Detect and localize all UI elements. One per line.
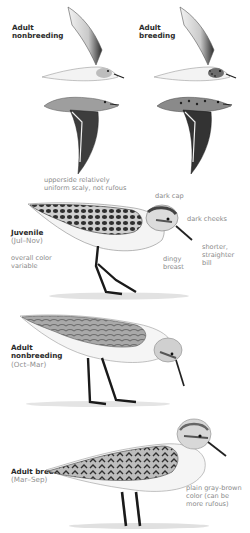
flying-bird-breeding-bottom-illustration xyxy=(153,92,233,177)
adult-breeding-bird-illustration xyxy=(44,410,234,530)
note-upperside: upperside relatively uniform scaly, not … xyxy=(44,176,126,192)
juvenile-bird-illustration xyxy=(24,196,214,301)
flying-bird-nonbreeding-top-illustration xyxy=(36,5,126,85)
adult-nonbreeding-bird-illustration xyxy=(18,308,188,408)
flying-bird-breeding-top-illustration xyxy=(148,5,238,85)
flying-bird-nonbreeding-bottom-illustration xyxy=(40,92,120,177)
